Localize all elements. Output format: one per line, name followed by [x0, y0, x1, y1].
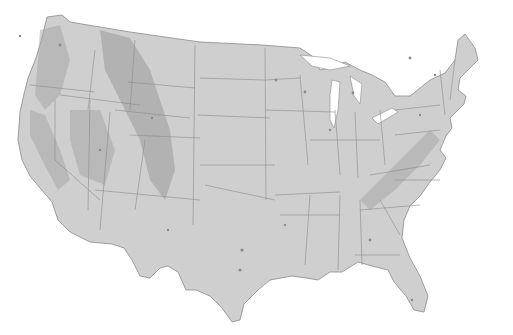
- us-relief-map: [0, 0, 513, 335]
